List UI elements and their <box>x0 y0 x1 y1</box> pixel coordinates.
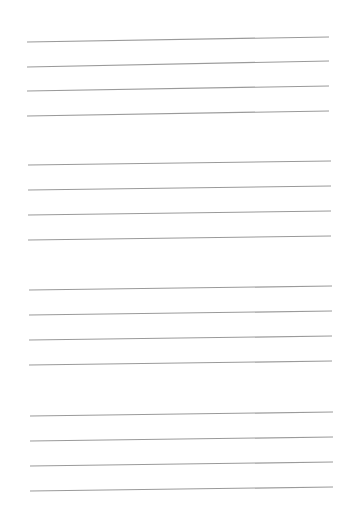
ruled-line <box>29 286 332 290</box>
ruled-lines <box>0 0 339 528</box>
line-group-4 <box>30 412 333 491</box>
ruled-line <box>28 211 331 215</box>
ruled-line <box>28 161 331 165</box>
ruled-line <box>28 236 331 240</box>
ruled-line <box>29 311 332 315</box>
ruled-line <box>30 412 333 416</box>
line-group-2 <box>28 161 331 240</box>
ruled-line <box>27 86 329 91</box>
ruled-line <box>30 462 333 466</box>
ruled-line <box>27 61 329 67</box>
ruled-line <box>27 111 329 116</box>
line-group-1 <box>27 37 329 116</box>
ruled-line <box>30 437 333 441</box>
ruled-line <box>29 361 332 365</box>
ruled-line <box>28 186 331 190</box>
lined-paper-page <box>0 0 339 528</box>
ruled-line <box>30 487 333 491</box>
ruled-line <box>27 37 329 42</box>
ruled-line <box>29 336 332 340</box>
line-group-3 <box>29 286 332 365</box>
